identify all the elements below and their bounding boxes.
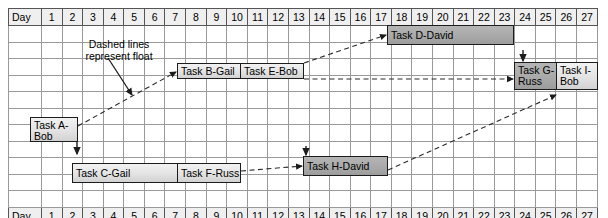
- link-a-to-b: [78, 72, 176, 126]
- note-pointer-arrow: [108, 58, 132, 95]
- task-bar-i-line2: Bob: [560, 76, 597, 87]
- link-e-to-d: [304, 35, 386, 63]
- task-bar-f[interactable]: Task F-Russ: [177, 163, 241, 183]
- task-bar-h[interactable]: Task H-David: [303, 156, 388, 176]
- gantt-chart: Day 1 2 3 4 5 6 7 8 9 10 11 12 13 14 15 …: [0, 0, 608, 218]
- float-note-line1: Dashed lines: [64, 38, 174, 50]
- task-bar-i[interactable]: Task I- Bob: [556, 62, 598, 90]
- task-bar-e[interactable]: Task E-Bob: [240, 63, 304, 79]
- link-f-to-h: [241, 166, 302, 171]
- float-note: Dashed lines represent float: [64, 38, 174, 62]
- dependency-links: [0, 0, 608, 218]
- link-h-to-i: [388, 95, 556, 170]
- task-bar-d[interactable]: Task D-David: [387, 25, 514, 45]
- task-bar-a-line2: Bob: [34, 131, 77, 142]
- task-bar-g-line2: Russ: [518, 76, 556, 87]
- task-bar-b[interactable]: Task B-Gail: [177, 63, 241, 79]
- task-bar-a[interactable]: Task A- Bob: [30, 117, 78, 142]
- float-note-line2: represent float: [64, 50, 174, 62]
- task-bar-c[interactable]: Task C-Gail: [72, 163, 178, 183]
- task-bar-g[interactable]: Task G- Russ: [514, 62, 557, 90]
